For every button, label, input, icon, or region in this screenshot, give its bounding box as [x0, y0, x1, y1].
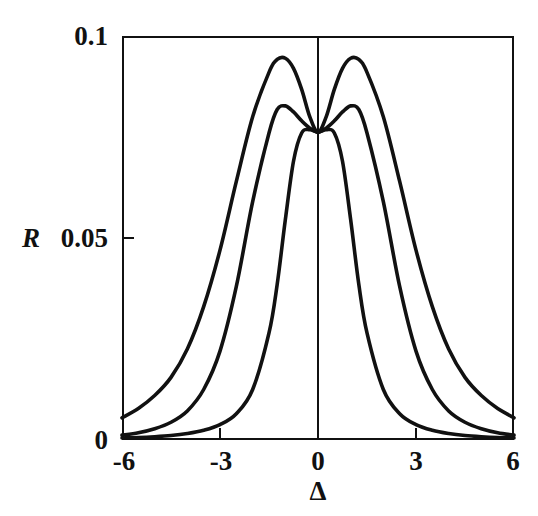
y-axis-label: R: [22, 225, 40, 252]
plot-canvas: [122, 36, 514, 440]
chart-figure: R 0 0.05 0.1 -6 -3 0 3 6 Δ: [0, 0, 538, 516]
y-tick-label-0: 0: [46, 427, 108, 454]
x-tick-label-neg3: -3: [210, 448, 233, 475]
x-tick-label-6: 6: [506, 448, 520, 475]
y-tick-label-0-1: 0.1: [46, 23, 108, 50]
x-axis-label: Δ: [310, 478, 327, 505]
x-tick-label-3: 3: [409, 448, 423, 475]
x-tick-label-0: 0: [311, 448, 325, 475]
y-tick-label-0-05: 0.05: [46, 225, 108, 252]
x-tick-label-neg6: -6: [113, 448, 136, 475]
